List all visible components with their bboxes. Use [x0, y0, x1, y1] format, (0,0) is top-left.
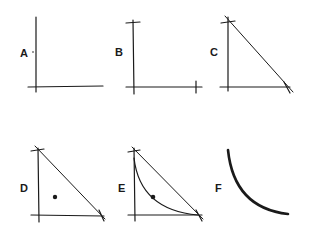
panel-a-point — [32, 51, 34, 53]
panel-a-x-axis — [28, 86, 103, 87]
panel-d-frontier-line — [35, 146, 105, 219]
panel-e — [128, 147, 203, 221]
panel-a — [28, 17, 103, 92]
panel-e-convex-curve — [134, 158, 198, 215]
panel-f-curve — [228, 150, 288, 214]
panel-d-y-axis — [38, 148, 39, 222]
panel-b — [126, 20, 202, 94]
panel-f-label: F — [215, 183, 222, 194]
panel-b-label: B — [115, 47, 123, 58]
panel-c-label: C — [210, 47, 218, 58]
panel-c-frontier-line — [225, 16, 293, 92]
panel-b-y-axis — [133, 20, 134, 94]
panel-a-label: A — [20, 48, 28, 59]
panel-d-interior-point — [53, 195, 57, 199]
diagram-canvas — [0, 0, 318, 233]
panel-d-x-axis — [31, 215, 104, 216]
panel-e-curve-point — [151, 195, 156, 200]
panel-b-y-max-tick — [126, 22, 140, 23]
panel-e-label: E — [118, 183, 125, 194]
panel-d — [31, 146, 105, 222]
panel-d-label: D — [20, 183, 28, 194]
panel-c — [220, 16, 293, 93]
panel-f — [228, 150, 288, 214]
